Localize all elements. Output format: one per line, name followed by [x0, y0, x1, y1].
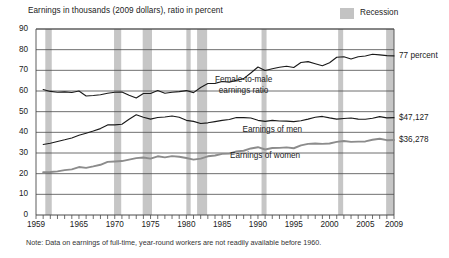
recession-band: [186, 29, 190, 215]
recession-band: [114, 29, 121, 215]
y-axis-tick-label: 50: [8, 107, 28, 116]
y-axis-tick-label: 80: [8, 45, 28, 54]
recession-band: [197, 29, 207, 215]
x-axis-tick-label: 1985: [202, 220, 242, 229]
x-axis-tick-label: 1990: [238, 220, 278, 229]
recession-band: [143, 29, 152, 215]
y-axis-tick-label: 60: [8, 86, 28, 95]
recession-legend-swatch: [340, 8, 354, 19]
x-axis-tick-label: 1959: [16, 220, 56, 229]
x-axis-tick-label: 1995: [274, 220, 314, 229]
series-inline-label: Female-to-maleearnings ratio: [184, 74, 304, 96]
x-axis-tick-label: 2000: [310, 220, 350, 229]
y-axis-tick-label: 70: [8, 65, 28, 74]
x-axis-tick-label: 1975: [131, 220, 171, 229]
y-axis-tick-label: 0: [8, 210, 28, 219]
y-axis-tick-label: 90: [8, 24, 28, 33]
chart-figure: Earnings in thousands (2009 dollars), ra…: [0, 0, 449, 258]
recession-band: [45, 29, 51, 215]
y-axis-tick-label: 40: [8, 127, 28, 136]
y-axis-tick-label: 20: [8, 169, 28, 178]
x-axis-tick-label: 1970: [95, 220, 135, 229]
series-inline-label: Earnings of men: [212, 124, 332, 135]
recession-legend-label: Recession: [360, 8, 398, 17]
y-axis-tick-label: 30: [8, 148, 28, 157]
y-axis-tick-label: 10: [8, 189, 28, 198]
recession-band: [386, 29, 394, 215]
chart-title: Earnings in thousands (2009 dollars), ra…: [28, 6, 223, 15]
x-axis-tick-label: 1965: [59, 220, 99, 229]
series-end-label: $36,278: [399, 135, 429, 144]
recession-band: [262, 29, 267, 215]
x-axis-tick-label: 1980: [166, 220, 206, 229]
chart-note: Note: Data on earnings of full-time, yea…: [26, 238, 321, 247]
x-axis-tick-label: 2009: [374, 220, 414, 229]
series-inline-label: Earnings of women: [205, 150, 325, 161]
series-end-label: $47,127: [399, 113, 429, 122]
series-end-label: 77 percent: [399, 51, 438, 60]
